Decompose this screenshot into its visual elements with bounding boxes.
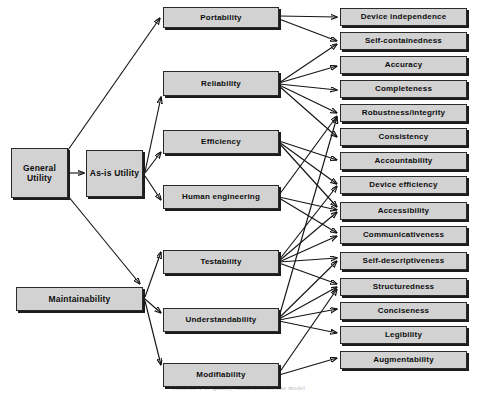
node-label: Device independence	[361, 12, 447, 21]
node-label: Structuredness	[373, 282, 434, 291]
node-completeness[interactable]: Completeness	[340, 80, 467, 98]
node-accessibility[interactable]: Accessibility	[340, 202, 467, 220]
node-label: Human engineering	[182, 192, 260, 201]
node-testability[interactable]: Testability	[163, 250, 279, 274]
node-self-containedness[interactable]: Self-containedness	[340, 32, 467, 50]
node-label: Understandability	[186, 315, 257, 324]
node-robustness-integrity[interactable]: Robustness/integrity	[340, 104, 467, 122]
node-structuredness[interactable]: Structuredness	[340, 278, 467, 296]
node-device-independence[interactable]: Device independence	[340, 8, 467, 26]
node-efficiency[interactable]: Efficiency	[163, 130, 279, 154]
node-label: Self-containedness	[365, 36, 442, 45]
node-label: Accessibility	[378, 206, 430, 215]
node-label: Accountability	[375, 156, 433, 165]
node-communicativeness[interactable]: Communicativeness	[340, 226, 467, 244]
quality-characteristics-tree-diagram: General Utility As-is Utility Maintainab…	[0, 0, 478, 397]
node-human-engineering[interactable]: Human engineering	[163, 185, 279, 209]
node-understandability[interactable]: Understandability	[163, 308, 279, 332]
node-augmentability[interactable]: Augmentability	[340, 351, 467, 369]
node-label: Reliability	[201, 79, 241, 88]
node-label: Communicativeness	[363, 230, 444, 239]
node-portability[interactable]: Portability	[163, 7, 279, 28]
node-self-descriptiveness[interactable]: Self-descriptiveness	[340, 252, 467, 270]
node-label: Robustness/integrity	[362, 108, 446, 117]
node-label: Efficiency	[201, 137, 241, 146]
node-label: Modifiability	[196, 370, 245, 379]
node-conciseness[interactable]: Conciseness	[340, 302, 467, 320]
node-general-utility[interactable]: General Utility	[11, 148, 68, 198]
node-label: Device efficiency	[369, 180, 437, 189]
node-label: Accuracy	[385, 60, 423, 69]
node-label: Testability	[200, 257, 241, 266]
node-maintainability[interactable]: Maintainability	[16, 287, 143, 311]
node-label: Maintainability	[48, 294, 110, 304]
node-consistency[interactable]: Consistency	[340, 128, 467, 146]
node-label: Completeness	[375, 84, 432, 93]
node-label: Consistency	[379, 132, 429, 141]
node-label: General Utility	[12, 163, 67, 183]
node-label: Conciseness	[378, 306, 430, 315]
node-label: Legibility	[385, 330, 422, 339]
node-reliability[interactable]: Reliability	[163, 71, 279, 96]
node-modifiability[interactable]: Modifiability	[163, 363, 279, 387]
node-as-is-utility[interactable]: As-is Utility	[86, 150, 143, 197]
node-accountability[interactable]: Accountability	[340, 152, 467, 170]
node-label: Augmentability	[373, 355, 434, 364]
node-label: Self-descriptiveness	[363, 256, 445, 265]
node-label: As-is Utility	[90, 168, 139, 178]
node-legibility[interactable]: Legibility	[340, 326, 467, 344]
node-accuracy[interactable]: Accuracy	[340, 56, 467, 74]
node-label: Portability	[200, 13, 241, 22]
node-device-efficiency[interactable]: Device efficiency	[340, 176, 467, 194]
